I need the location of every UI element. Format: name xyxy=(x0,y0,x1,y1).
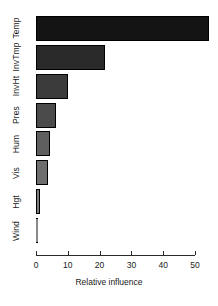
x-axis-line xyxy=(36,255,195,256)
x-tick-40 xyxy=(163,251,164,255)
x-tick-label-0: 0 xyxy=(24,260,48,270)
x-tick-0 xyxy=(36,251,37,255)
x-tick-20 xyxy=(100,251,101,255)
x-tick-label-40: 40 xyxy=(151,260,175,270)
x-tick-10 xyxy=(68,251,69,255)
x-tick-label-50: 50 xyxy=(183,260,207,270)
x-tick-label-20: 20 xyxy=(88,260,112,270)
x-tick-30 xyxy=(131,251,132,255)
relative-influence-bar-chart: WindHgtVisHumPresInvHtInvTmpTemp 0102030… xyxy=(0,0,218,306)
x-axis: 01020304050 xyxy=(0,0,218,306)
x-tick-label-30: 30 xyxy=(119,260,143,270)
x-tick-50 xyxy=(195,251,196,255)
x-tick-label-10: 10 xyxy=(56,260,80,270)
x-axis-title: Relative influence xyxy=(0,277,218,287)
